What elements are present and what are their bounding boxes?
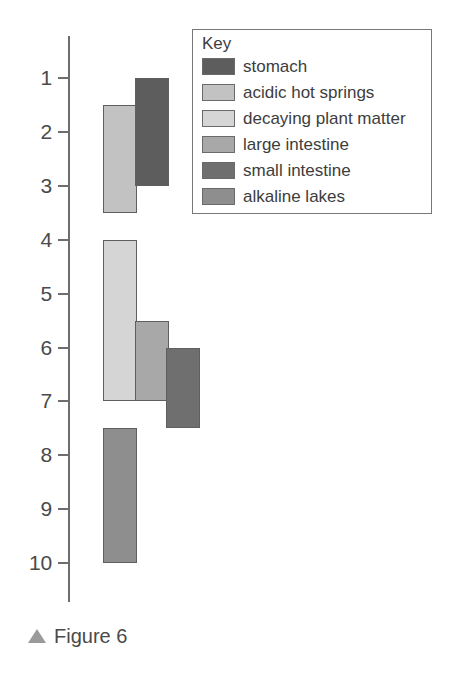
figure-caption: Figure 6 — [28, 626, 127, 646]
legend-item: decaying plant matter — [202, 106, 431, 132]
y-axis-tick — [58, 77, 69, 79]
y-axis-tick — [58, 131, 69, 133]
y-axis-tick — [58, 400, 69, 402]
legend-color-swatch — [202, 110, 235, 127]
chart-legend: Key stomachacidic hot springsdecaying pl… — [192, 29, 432, 214]
y-axis-tick-label: 2 — [6, 121, 52, 142]
y-axis-tick — [58, 562, 69, 564]
y-axis-tick — [58, 239, 69, 241]
triangle-up-icon — [28, 629, 46, 643]
chart-bar — [135, 78, 169, 186]
chart-bar — [103, 428, 137, 563]
y-axis-tick-label: 7 — [6, 390, 52, 411]
legend-title: Key — [202, 35, 431, 53]
legend-color-swatch — [202, 188, 235, 205]
legend-color-swatch — [202, 162, 235, 179]
y-axis-tick-label: 3 — [6, 175, 52, 196]
legend-item-label: large intestine — [243, 136, 349, 153]
y-axis-tick-label: 1 — [6, 67, 52, 88]
legend-item-list: stomachacidic hot springsdecaying plant … — [202, 54, 431, 210]
y-axis-tick-label: 6 — [6, 337, 52, 358]
y-axis-tick — [58, 454, 69, 456]
chart-bar — [103, 240, 137, 402]
y-axis-tick — [58, 293, 69, 295]
chart-bar — [135, 321, 169, 402]
legend-item: small intestine — [202, 158, 431, 184]
figure-6-container: 12345678910 Key stomachacidic hot spring… — [0, 0, 455, 687]
legend-item: acidic hot springs — [202, 80, 431, 106]
legend-item-label: small intestine — [243, 162, 351, 179]
legend-color-swatch — [202, 136, 235, 153]
y-axis-tick — [58, 185, 69, 187]
y-axis-tick — [58, 508, 69, 510]
legend-item-label: decaying plant matter — [243, 110, 406, 127]
legend-item-label: acidic hot springs — [243, 84, 374, 101]
legend-color-swatch — [202, 84, 235, 101]
chart-bar — [166, 348, 200, 429]
legend-color-swatch — [202, 58, 235, 75]
legend-item-label: alkaline lakes — [243, 188, 345, 205]
figure-caption-text: Figure 6 — [54, 626, 127, 646]
legend-item-label: stomach — [243, 58, 307, 75]
legend-item: large intestine — [202, 132, 431, 158]
y-axis-tick-label: 5 — [6, 283, 52, 304]
chart-bar — [103, 105, 137, 213]
y-axis-tick-label: 10 — [6, 552, 52, 573]
y-axis-tick-label: 4 — [6, 229, 52, 250]
y-axis-line — [68, 36, 70, 602]
y-axis-tick — [58, 347, 69, 349]
legend-item: alkaline lakes — [202, 184, 431, 210]
y-axis-tick-label: 8 — [6, 444, 52, 465]
y-axis-tick-label: 9 — [6, 498, 52, 519]
legend-item: stomach — [202, 54, 431, 80]
